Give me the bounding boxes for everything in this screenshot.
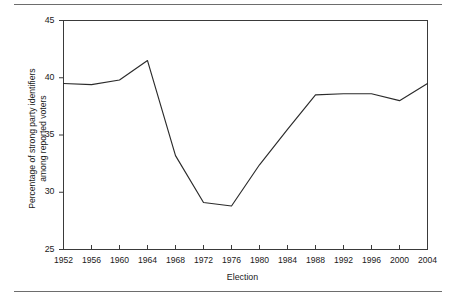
x-tick-label: 1968 <box>161 256 191 265</box>
plot-frame <box>64 21 428 250</box>
x-tick-label: 1976 <box>217 256 247 265</box>
x-axis-title: Election <box>57 272 428 282</box>
x-tick-label: 1984 <box>273 256 303 265</box>
x-tick-label: 1988 <box>301 256 331 265</box>
x-tick-label: 1956 <box>77 256 107 265</box>
x-tick-label: 1980 <box>245 256 275 265</box>
y-tick-label: 30 <box>31 187 55 196</box>
x-tick-label: 1972 <box>189 256 219 265</box>
x-tick-label: 2000 <box>385 256 415 265</box>
x-tick-label: 1952 <box>49 256 79 265</box>
y-tick-label: 45 <box>31 16 55 25</box>
x-tick-label: 2004 <box>413 256 443 265</box>
data-series-line <box>64 61 428 206</box>
x-tick-label: 1992 <box>329 256 359 265</box>
y-tick-marks <box>59 21 64 250</box>
y-tick-label: 35 <box>31 130 55 139</box>
x-tick-label: 1996 <box>357 256 387 265</box>
y-tick-label: 25 <box>31 245 55 254</box>
x-tick-label: 1964 <box>133 256 163 265</box>
x-tick-label: 1960 <box>105 256 135 265</box>
chart-figure: Percentage of strong party identifiersam… <box>0 0 453 303</box>
x-tick-marks <box>64 245 428 250</box>
y-tick-label: 40 <box>31 73 55 82</box>
